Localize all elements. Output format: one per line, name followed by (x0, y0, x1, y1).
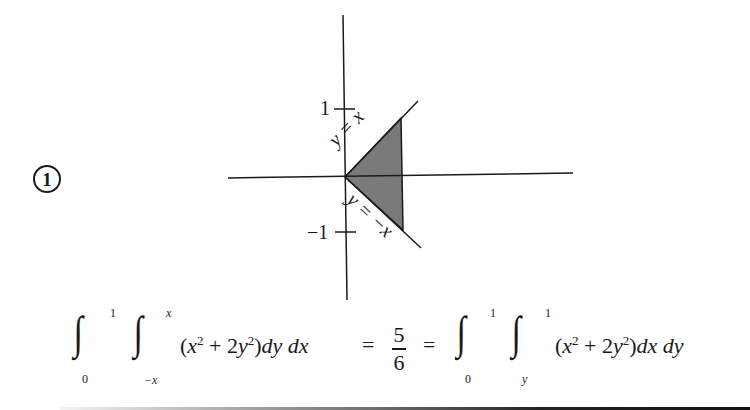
equals-sign-1: = (362, 332, 374, 358)
integral-sign-outer-lhs: ∫ (74, 310, 83, 356)
fraction-numerator: 5 (394, 324, 405, 346)
integral-sign-inner-rhs: ∫ (512, 310, 521, 356)
lhs-outer-lower: 0 (82, 372, 88, 387)
coordinate-plot (0, 0, 750, 300)
result-fraction: 5 6 (392, 324, 406, 374)
region-figure: 1 −1 y = x y = −x 1 (0, 0, 750, 300)
tick-label-neg-1: −1 (307, 221, 328, 244)
problem-number-badge: 1 (33, 165, 61, 193)
equals-sign-2: = (423, 332, 435, 358)
rhs-inner-lower: y (522, 372, 527, 387)
tick-label-1: 1 (320, 97, 330, 120)
y-axis (343, 15, 347, 300)
rhs-outer-lower: 0 (465, 372, 471, 387)
lhs-inner-lower: −x (144, 373, 157, 388)
rhs-integrand: (x2 + 2y2)dx dy (555, 333, 684, 359)
lhs-outer-upper: 1 (110, 306, 116, 321)
lhs-inner-upper: x (166, 306, 171, 321)
integral-sign-outer-rhs: ∫ (457, 310, 466, 356)
integral-sign-inner-lhs: ∫ (134, 310, 143, 356)
fraction-denominator: 6 (394, 352, 405, 374)
lhs-integrand: (x2 + 2y2)dy dx (180, 333, 309, 359)
problem-number: 1 (42, 170, 52, 189)
rhs-inner-upper: 1 (545, 306, 551, 321)
rhs-outer-upper: 1 (490, 306, 496, 321)
integral-equation: ∫ 1 0 ∫ x −x (x2 + 2y2)dy dx = 5 6 = ∫ 1… (0, 300, 750, 400)
